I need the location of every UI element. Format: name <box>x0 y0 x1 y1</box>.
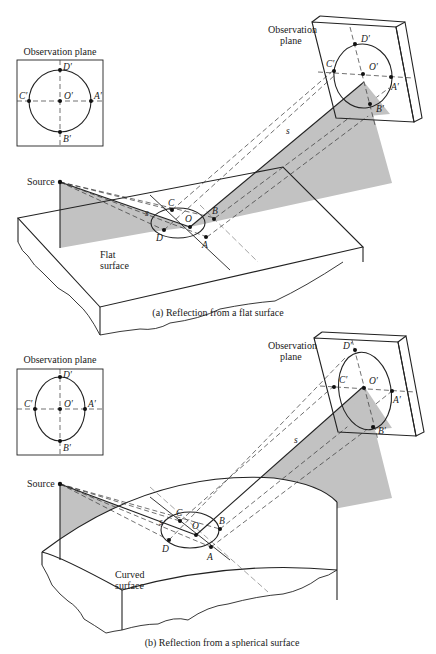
label-b-prime: B′ <box>63 134 72 144</box>
reflection-diagram: Observation plane D′ C′ O′ A′ B′ <box>0 0 436 654</box>
ray-label-s-incident-a: s <box>145 208 149 218</box>
plane-label-d-prime-a: D′ <box>360 34 371 44</box>
source-label-b: Source <box>27 478 55 489</box>
source-point-a <box>58 180 62 184</box>
inset-title-b: Observation plane <box>23 354 97 365</box>
point-o-b <box>194 533 198 537</box>
point-c-prime <box>27 99 31 103</box>
plane-title-a-line1: Observation <box>268 24 317 35</box>
source-label-a: Source <box>27 176 55 187</box>
label-o-a: O <box>185 214 192 224</box>
point-o-a <box>188 225 192 229</box>
point-d-prime <box>58 68 62 72</box>
caption-b: (b) Reflection from a spherical surface <box>145 637 300 649</box>
caption-a: (a) Reflection from a flat surface <box>152 307 284 319</box>
label-c-a: C <box>168 198 175 208</box>
plane-title-b-line2: plane <box>280 351 302 362</box>
label-a-prime-b: A′ <box>87 399 97 409</box>
point-a-b <box>209 545 213 549</box>
point-b-prime <box>58 130 62 134</box>
plane-label-c-prime-a: C′ <box>326 59 335 69</box>
observation-plane-a: D′ C′ O′ A′ B′ <box>312 16 422 125</box>
label-d-prime-b: D′ <box>62 370 73 380</box>
figure-a: Observation plane D′ C′ O′ A′ B′ <box>17 16 422 335</box>
incidence-shade-a <box>60 182 190 248</box>
label-d-b: D <box>161 544 169 554</box>
point-b-prime-b <box>58 439 62 443</box>
ray-label-s-incident-b: s <box>159 517 163 527</box>
label-o-prime: O′ <box>64 91 74 101</box>
plane-label-a-prime-a: A′ <box>390 82 400 92</box>
inset-observation-plane-a: Observation plane D′ C′ O′ A′ B′ <box>17 46 103 146</box>
plane-title-a-line2: plane <box>280 35 302 46</box>
label-b-b: B <box>219 516 225 526</box>
surface-label-a-line2: surface <box>100 260 129 271</box>
plane-label-b-prime-a: B′ <box>376 104 385 114</box>
label-b-prime-b: B′ <box>63 443 72 453</box>
plane-label-d-prime-b: D′ <box>342 341 353 351</box>
plane-title-b-line1: Observation <box>268 340 317 351</box>
ray-label-s-reflected-a: s <box>286 126 290 136</box>
plane-label-b-prime-b: B′ <box>378 426 387 436</box>
surface-label-b-line2: surface <box>115 580 144 591</box>
point-c-a <box>170 208 174 212</box>
source-point-b <box>58 482 62 486</box>
point-o-prime <box>58 99 62 103</box>
point-c-b <box>178 519 182 523</box>
point-b-b <box>218 527 222 531</box>
inset-observation-plane-b: Observation plane D′ C′ O′ A′ B′ <box>17 354 103 455</box>
surface-label-a-line1: Flat <box>100 249 116 260</box>
ray-label-s-reflected-b: s <box>294 435 298 445</box>
point-a-a <box>204 235 208 239</box>
plane-label-c-prime-b: C′ <box>339 375 348 385</box>
plane-label-o-prime-b: O′ <box>369 376 379 386</box>
inset-title-a: Observation plane <box>23 46 97 57</box>
surface-label-b-line1: Curved <box>115 569 144 580</box>
plane-label-a-prime-b: A′ <box>392 395 402 405</box>
point-d-prime-b <box>58 375 62 379</box>
label-b-a: B <box>212 206 218 216</box>
label-c-prime: C′ <box>19 91 28 101</box>
point-a-prime <box>89 99 93 103</box>
label-c-prime-b: C′ <box>24 399 33 409</box>
label-d-a: D <box>155 233 163 243</box>
point-a-prime-b <box>83 407 87 411</box>
label-c-b: C <box>176 508 183 518</box>
plane-label-o-prime-a: O′ <box>369 62 379 72</box>
label-d-prime: D′ <box>62 62 73 72</box>
point-o-prime-b <box>58 407 62 411</box>
label-a-prime: A′ <box>93 91 103 101</box>
point-d-b <box>167 538 171 542</box>
figure-b: Observation plane D′ C′ O′ A′ B′ <box>17 332 424 649</box>
label-a-a: A <box>201 240 208 250</box>
label-o-prime-b: O′ <box>64 399 74 409</box>
point-d-a <box>162 228 166 232</box>
point-b-a <box>212 217 216 221</box>
label-o-b: O <box>192 521 199 531</box>
label-a-b: A <box>206 552 213 562</box>
point-c-prime-b <box>33 407 37 411</box>
